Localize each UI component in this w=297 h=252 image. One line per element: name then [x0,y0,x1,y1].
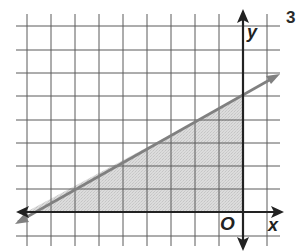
boundary-arrow-right-icon [266,74,280,84]
problem-number: 3 [286,8,295,28]
x-axis-label: x [268,215,278,236]
y-axis-label: y [247,22,257,43]
origin-label: O [220,213,235,235]
